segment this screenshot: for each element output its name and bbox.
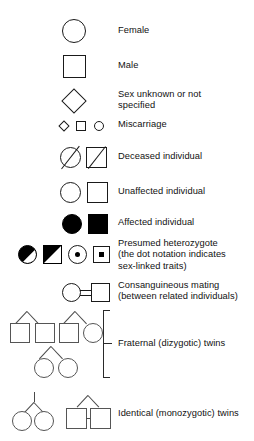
label-line-1: Deceased individual [118, 151, 202, 161]
legend-row-miscarriage: Miscarriage [0, 116, 254, 138]
twin-fork-leg [51, 346, 63, 359]
square-symbol [59, 323, 79, 343]
symbol-cell-female [0, 18, 113, 44]
square-symbol [66, 408, 87, 429]
legend-label-deceased: Deceased individual [118, 151, 254, 162]
legend-label-consanguineous-mating: Consanguineous mating (between related i… [118, 280, 254, 303]
symbol-cell-fraternal-twins [0, 310, 118, 382]
square-symbol [91, 283, 110, 302]
carrier-dot-icon [75, 252, 80, 257]
circle-symbol [58, 358, 78, 378]
label-line-1: Affected individual [118, 217, 194, 227]
legend-label-identical-twins: Identical (monozygotic) twins [118, 408, 254, 419]
square-symbol [35, 323, 55, 343]
diamond-symbol [61, 88, 86, 113]
label-line-2: (between related individuals) [118, 291, 254, 302]
symbol-cell-unaffected [0, 180, 113, 206]
small-circle-symbol [94, 121, 104, 131]
circle-half-filled-symbol [18, 245, 37, 264]
label-line-1: Miscarriage [118, 119, 167, 129]
legend-label-affected: Affected individual [118, 217, 254, 228]
label-line-3: sex-linked traits) [118, 261, 254, 272]
legend-row-male: Male [0, 54, 254, 80]
square-symbol [90, 408, 111, 429]
legend-label-unaffected: Unaffected individual [118, 186, 254, 197]
legend-row-fraternal-twins: Fraternal (dizygotic) twins [0, 310, 254, 382]
legend-row-consanguineous-mating: Consanguineous mating (between related i… [0, 278, 254, 310]
legend-label-female: Female [118, 25, 254, 36]
fraternal-twins-bracket-tick [103, 343, 112, 344]
legend-row-presumed-heterozygote: Presumed heterozygote (the dot notation … [0, 240, 254, 280]
label-line-1: Unaffected individual [118, 186, 205, 196]
symbol-cell-miscarriage [0, 116, 113, 138]
legend-row-identical-twins: Identical (monozygotic) twins [0, 392, 254, 436]
legend-row-deceased: Deceased individual [0, 144, 254, 172]
legend-row-unaffected: Unaffected individual [0, 180, 254, 206]
mz-stem-line [34, 392, 35, 402]
symbol-cell-affected [0, 212, 113, 238]
square-symbol [87, 182, 108, 203]
label-line-1: Fraternal (dizygotic) twins [118, 338, 225, 348]
circle-symbol [83, 323, 103, 343]
symbol-cell-male [0, 54, 113, 80]
circle-symbol [34, 358, 54, 378]
legend-label-sex-unknown: Sex unknown or not specified [118, 89, 254, 112]
square-symbol [10, 323, 30, 343]
label-line-2: (the dot notation indicates [118, 249, 254, 260]
fraternal-twins-bracket [103, 310, 110, 378]
legend-row-affected: Affected individual [0, 212, 254, 238]
symbol-cell-consanguineous-mating [0, 278, 113, 310]
label-line-1: Sex unknown or not [118, 89, 201, 99]
circle-symbol [62, 283, 81, 302]
label-line-2: specified [118, 100, 254, 111]
square-half-filled-symbol [43, 245, 62, 264]
label-line-1: Consanguineous mating [118, 280, 219, 290]
legend-label-miscarriage: Miscarriage [118, 119, 254, 130]
label-line-1: Male [118, 60, 138, 70]
circle-symbol [34, 411, 54, 431]
label-line-1: Identical (monozygotic) twins [118, 408, 239, 418]
legend-label-male: Male [118, 60, 254, 71]
legend-row-female: Female [0, 18, 254, 44]
carrier-dot-icon [99, 252, 104, 257]
symbol-cell-presumed-heterozygote [0, 240, 113, 280]
label-line-1: Female [118, 25, 149, 35]
circle-filled-symbol [62, 214, 82, 234]
symbol-cell-identical-twins [0, 392, 118, 436]
legend-label-fraternal-twins: Fraternal (dizygotic) twins [118, 338, 254, 349]
circle-symbol [12, 411, 32, 431]
label-line-1: Presumed heterozygote [118, 238, 218, 248]
pedigree-legend: Female Male Sex unknown or not specified… [0, 0, 254, 441]
mz-fork-leg [77, 395, 89, 407]
circle-symbol [62, 19, 86, 43]
mz-fork-leg [88, 395, 100, 407]
legend-label-presumed-heterozygote: Presumed heterozygote (the dot notation … [118, 238, 254, 272]
square-filled-symbol [88, 214, 108, 234]
small-diamond-symbol [58, 120, 69, 131]
square-symbol [63, 55, 86, 78]
symbol-cell-deceased [0, 144, 113, 172]
small-square-symbol [76, 121, 86, 131]
circle-symbol [60, 182, 81, 203]
